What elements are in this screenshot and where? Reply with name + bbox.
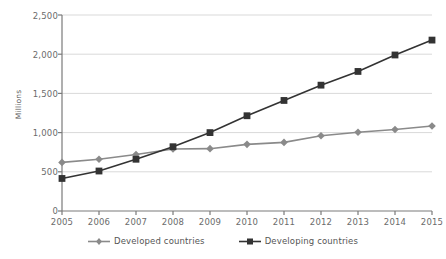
x-tick-label: 2009	[194, 217, 226, 227]
legend-item-developing[interactable]: Developing countries	[239, 236, 358, 246]
x-tick-label: 2012	[305, 217, 337, 227]
x-tick-label: 2014	[379, 217, 411, 227]
diamond-marker-icon	[88, 237, 110, 246]
data-point	[429, 37, 436, 44]
data-point	[207, 129, 214, 136]
data-point	[58, 159, 66, 167]
data-point	[170, 143, 177, 150]
data-point	[318, 82, 325, 89]
data-point	[59, 175, 66, 182]
x-tick-label: 2008	[157, 217, 189, 227]
x-tick-label: 2013	[342, 217, 374, 227]
line-chart: Millions 2,500 2,000 1,500 1,000 500 0 2…	[0, 0, 446, 259]
data-point	[392, 52, 399, 59]
square-marker-icon	[239, 237, 261, 246]
x-tick-label: 2010	[231, 217, 263, 227]
data-point	[96, 168, 103, 175]
data-point	[280, 139, 288, 147]
data-point	[354, 128, 362, 136]
legend-item-developed[interactable]: Developed countries	[88, 236, 205, 246]
x-tick-label: 2007	[120, 217, 152, 227]
x-tick-label: 2011	[268, 217, 300, 227]
x-tick-label: 2015	[416, 217, 446, 227]
data-point	[355, 68, 362, 75]
x-tick-label: 2005	[46, 217, 78, 227]
data-point	[243, 141, 251, 149]
data-point	[281, 97, 288, 104]
data-point	[95, 155, 103, 163]
data-point	[206, 145, 214, 153]
chart-legend: Developed countries Developing countries	[0, 236, 446, 246]
data-point	[244, 112, 251, 119]
legend-label: Developing countries	[265, 236, 358, 246]
data-point	[133, 156, 140, 163]
legend-label: Developed countries	[114, 236, 205, 246]
x-tick-label: 2006	[83, 217, 115, 227]
data-point	[428, 122, 436, 130]
